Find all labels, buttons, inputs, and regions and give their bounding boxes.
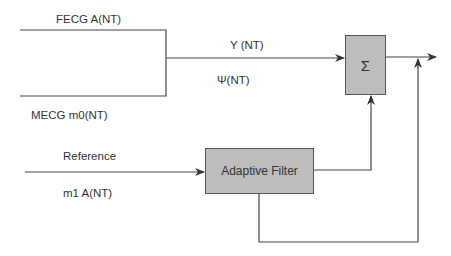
adaptive-filter-diagram: FECG A(NT) MECG m0(NT) Y (NT) Ψ(NT) Refe…	[0, 0, 451, 256]
y-label: Y (NT)	[230, 40, 264, 52]
reference-label: Reference	[63, 151, 116, 163]
filter-to-sum-line	[313, 96, 371, 170]
adaptive-filter-label: Adaptive Filter	[221, 164, 298, 178]
m1-label: m1 A(NT)	[63, 188, 112, 200]
fecg-line	[20, 30, 166, 96]
fecg-label: FECG A(NT)	[56, 14, 121, 26]
sigma-symbol: Σ	[361, 57, 370, 74]
adaptive-filter-block: Adaptive Filter	[205, 148, 314, 194]
psi-label: Ψ(NT)	[217, 75, 250, 87]
sum-block: Σ	[345, 35, 386, 95]
mecg-label: MECG m0(NT)	[31, 110, 108, 122]
